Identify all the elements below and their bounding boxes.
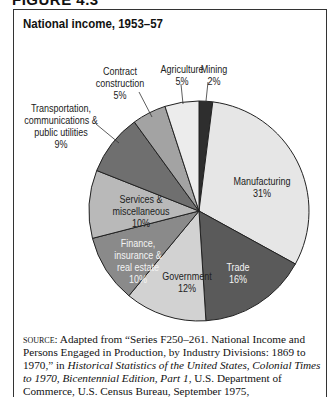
label-text: Government — [156, 271, 219, 283]
label-text: insurance & — [111, 250, 165, 262]
label-text: Mining — [198, 64, 230, 76]
label-contract-construction: Contract construction 5% — [93, 66, 147, 102]
label-text: construction — [93, 78, 147, 90]
label-mining: Mining 2% — [198, 64, 230, 88]
label-government: Government 12% — [156, 271, 219, 295]
label-pct: 16% — [216, 274, 261, 286]
label-text: Finance, — [111, 238, 165, 250]
source-prefix: source: — [23, 333, 58, 345]
label-pct: 5% — [93, 90, 147, 102]
label-pct: 2% — [198, 76, 230, 88]
source-citation: source: Adapted from “Series F250–261. N… — [23, 333, 323, 397]
label-text: Services & — [110, 194, 173, 206]
label-transportation: Transportation, communications & public … — [22, 103, 99, 151]
label-pct: 12% — [156, 283, 219, 295]
label-text: Trade — [216, 262, 261, 274]
label-trade: Trade 16% — [216, 262, 261, 286]
label-text: public utilities — [22, 127, 99, 139]
label-text: Contract — [93, 66, 147, 78]
label-text: Manufacturing — [226, 176, 298, 188]
label-text: communications & — [22, 115, 99, 127]
label-text: Transportation, — [22, 103, 99, 115]
label-services: Services & miscellaneous 10% — [110, 194, 173, 230]
label-pct: 10% — [110, 218, 173, 230]
label-manufacturing: Manufacturing 31% — [226, 176, 298, 200]
label-text: miscellaneous — [110, 206, 173, 218]
label-pct: 9% — [22, 139, 99, 151]
label-pct: 31% — [226, 188, 298, 200]
